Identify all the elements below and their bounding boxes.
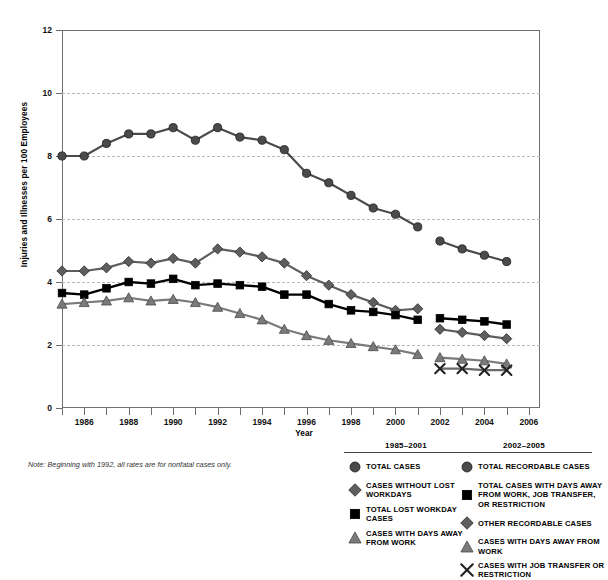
data-point xyxy=(480,251,488,259)
legend-item-label: TOTAL CASES WITH DAYS AWAY FROM WORK, JO… xyxy=(478,481,606,509)
data-point xyxy=(481,318,489,326)
data-series-layer xyxy=(0,0,608,430)
data-point xyxy=(258,136,266,144)
data-point xyxy=(103,285,111,293)
x-axis-label: Year xyxy=(0,429,608,438)
data-point xyxy=(414,316,422,324)
data-point xyxy=(279,258,289,268)
data-point xyxy=(169,275,177,283)
legend-right-title: 2002–2005 xyxy=(456,441,592,453)
data-point xyxy=(458,316,466,324)
data-point xyxy=(58,152,66,160)
legend-item-label: OTHER RECORDABLE CASES xyxy=(478,519,592,528)
data-point xyxy=(435,324,445,334)
data-point xyxy=(169,124,177,132)
legend-item-label: CASES WITH DAYS AWAY FROM WORK xyxy=(478,537,606,556)
data-point xyxy=(503,257,511,265)
legend-item[interactable]: TOTAL RECORDABLE CASES xyxy=(456,458,606,476)
data-point xyxy=(391,210,399,218)
data-point xyxy=(58,289,66,297)
legend-right-items: TOTAL RECORDABLE CASESTOTAL CASES WITH D… xyxy=(456,453,606,580)
series-8 xyxy=(435,353,512,368)
legend-item[interactable]: CASES WITH DAYS AWAY FROM WORK xyxy=(456,537,606,556)
series-line xyxy=(62,298,418,355)
legend-item-label: CASES WITHOUT LOST WORKDAYS xyxy=(366,481,468,500)
diamond-marker xyxy=(456,514,478,532)
square-marker xyxy=(456,486,478,504)
data-point xyxy=(147,130,155,138)
data-point xyxy=(235,247,245,257)
series-line xyxy=(440,318,507,324)
data-point xyxy=(414,223,422,231)
legend-item[interactable]: CASES WITHOUT LOST WORKDAYS xyxy=(344,481,468,500)
legend-item-label: TOTAL LOST WORKDAY CASES xyxy=(366,505,468,524)
series-7 xyxy=(435,324,512,344)
legend-item[interactable]: TOTAL LOST WORKDAY CASES xyxy=(344,505,468,524)
series-line xyxy=(440,369,507,371)
data-point xyxy=(479,330,489,340)
data-point xyxy=(347,191,355,199)
square-marker xyxy=(344,505,366,523)
data-point xyxy=(413,304,423,314)
data-point xyxy=(458,245,466,253)
data-point xyxy=(191,136,199,144)
data-point xyxy=(346,289,356,299)
data-point xyxy=(436,314,444,322)
diamond-marker xyxy=(344,481,366,499)
data-point xyxy=(280,146,288,154)
triangle-marker xyxy=(456,538,478,556)
data-point xyxy=(192,281,200,289)
data-point xyxy=(214,124,222,132)
triangle-marker xyxy=(344,529,366,547)
legend-item[interactable]: CASES WITH JOB TRANSFER OR RESTRICTION xyxy=(456,561,606,580)
series-1 xyxy=(58,124,422,231)
circle-marker xyxy=(456,458,478,476)
data-point xyxy=(436,237,444,245)
data-point xyxy=(147,280,155,288)
legend-item[interactable]: CASES WITH DAYS AWAY FROM WORK xyxy=(344,529,468,548)
data-point xyxy=(101,263,111,273)
series-line xyxy=(440,329,507,338)
legend-item-label: TOTAL CASES xyxy=(366,462,420,471)
data-point xyxy=(325,300,333,308)
x-marker xyxy=(456,561,478,579)
data-point xyxy=(125,130,133,138)
legend-item[interactable]: TOTAL CASES xyxy=(344,458,468,476)
data-point xyxy=(80,152,88,160)
data-point xyxy=(303,291,311,299)
data-point xyxy=(503,321,511,329)
data-point xyxy=(79,266,89,276)
series-line xyxy=(62,128,418,227)
series-line xyxy=(440,241,507,261)
data-point xyxy=(301,271,311,281)
legend-item-label: CASES WITH JOB TRANSFER OR RESTRICTION xyxy=(478,561,606,580)
data-point xyxy=(369,204,377,212)
data-point xyxy=(502,334,512,344)
data-point xyxy=(347,307,355,315)
legend-left-items: TOTAL CASESCASES WITHOUT LOST WORKDAYSTO… xyxy=(344,453,468,547)
legend-2002-2005: 2002–2005 TOTAL RECORDABLE CASESTOTAL CA… xyxy=(456,441,606,580)
chart-footnote: Note: Beginning with 1992, all rates are… xyxy=(28,460,288,469)
legend-item[interactable]: TOTAL CASES WITH DAYS AWAY FROM WORK, JO… xyxy=(456,481,606,509)
data-point xyxy=(392,311,400,319)
data-point xyxy=(258,283,266,291)
data-point xyxy=(102,139,110,147)
series-5 xyxy=(436,237,511,266)
series-9 xyxy=(435,364,511,375)
data-point xyxy=(214,280,222,288)
data-point xyxy=(125,278,133,286)
series-line xyxy=(62,249,418,310)
chart-page: 024681012 198619881990199219941996199820… xyxy=(0,0,608,580)
data-point xyxy=(236,281,244,289)
data-point xyxy=(325,179,333,187)
data-point xyxy=(168,253,178,263)
legend-item[interactable]: OTHER RECORDABLE CASES xyxy=(456,514,606,532)
data-point xyxy=(146,258,156,268)
legend-1985-2001: 1985–2001 TOTAL CASESCASES WITHOUT LOST … xyxy=(344,441,468,552)
legend-left-title: 1985–2001 xyxy=(344,441,468,453)
data-point xyxy=(368,297,378,307)
plot-area: 024681012 198619881990199219941996199820… xyxy=(0,0,608,430)
legend-item-label: TOTAL RECORDABLE CASES xyxy=(478,462,590,471)
circle-marker xyxy=(344,458,366,476)
data-point xyxy=(281,291,289,299)
